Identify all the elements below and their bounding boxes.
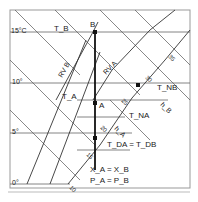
label-tna: T_NA [129, 111, 150, 120]
label-tnb: T_NB [157, 83, 177, 92]
label-a: A [99, 101, 105, 110]
enthalpy-lines [10, 10, 190, 180]
enthalpy-label-20: 20 [99, 124, 108, 133]
temp-tick-0: 0° [12, 179, 19, 186]
label-ta: T_A [62, 92, 77, 101]
temp-tick-5: 5° [12, 128, 19, 135]
frame [10, 10, 190, 188]
label-tda-tdb: T_DA = T_DB [107, 140, 156, 149]
point-b [93, 30, 97, 34]
temp-tick-10: 10° [12, 78, 23, 85]
point-a [93, 101, 97, 105]
label-hb: h_B [159, 101, 174, 116]
psychrometric-diagram: 15°C 10° 5° 0° B A T_B T_A T_NA T_NB h_B… [0, 0, 198, 202]
label-pa-pb: P_A = P_B [90, 176, 129, 185]
label-ha: h_A [113, 125, 128, 140]
point-dew [93, 136, 97, 140]
humidity-curves [27, 10, 190, 184]
point-tnb [136, 83, 140, 87]
label-b: B [90, 20, 95, 29]
label-tb: T_B [54, 24, 69, 33]
enthalpy-label-25: 25 [120, 97, 129, 106]
label-xa-xb: X_A = X_B [90, 165, 129, 174]
temp-tick-15: 15°C [11, 27, 27, 34]
